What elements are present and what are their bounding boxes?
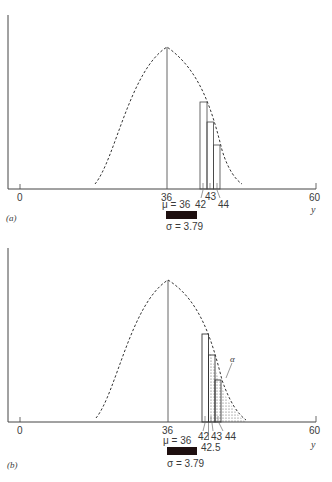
panel-b-tick-60: 60 [309, 426, 320, 436]
panel-b-shaded-tail [208, 345, 246, 422]
panel-b-bar-label-42-5: 42.5 [201, 443, 220, 453]
panel-a-bar-label-43: 43 [205, 192, 216, 202]
panel-a-mu-label: μ = 36 [162, 200, 190, 210]
panel-a-bar-label-42: 42 [195, 200, 206, 210]
panel-a-axes [8, 15, 316, 189]
panel-a-sigma-label: σ = 3.79 [166, 222, 203, 232]
figure-canvas [0, 0, 332, 482]
panel-b-bar-label-42: 42 [198, 432, 209, 442]
panel-b-axes [8, 248, 316, 422]
panel-a-axis-var: y [311, 205, 315, 215]
panel-b-bar-label-44: 44 [225, 432, 236, 442]
panel-b-sigma-label: σ = 3.79 [167, 459, 204, 469]
panel-a-bars [200, 102, 220, 189]
panel-b-label: (b) [7, 461, 18, 470]
panel-b-redaction-bar [167, 447, 197, 455]
panel-a-label: (a) [6, 214, 17, 223]
panel-a-tick-60: 60 [309, 193, 320, 203]
panel-a-redaction-bar [166, 211, 197, 219]
panel-b-tick-0: 0 [17, 426, 23, 436]
panel-b-mu-label: μ = 36 [163, 436, 191, 446]
panel-b-bar-label-43: 43 [211, 432, 222, 442]
panel-a-bar-label-44: 44 [218, 200, 229, 210]
panel-b-alpha-label: α [230, 355, 235, 364]
panel-a-tick-0: 0 [17, 193, 23, 203]
panel-b-axis-var: y [311, 440, 315, 450]
